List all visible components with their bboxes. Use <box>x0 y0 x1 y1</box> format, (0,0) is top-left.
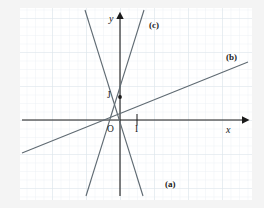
origin-label: O <box>107 125 114 135</box>
graph-screenshot: x y O I J (a) (b) (c) <box>0 0 264 208</box>
x-axis <box>22 116 250 124</box>
curve-b-line <box>22 62 248 153</box>
x-axis-label: x <box>226 125 230 135</box>
x-unit-label: I <box>135 125 138 135</box>
y-axis-label: y <box>109 14 113 24</box>
plot-panel: x y O I J (a) (b) (c) <box>20 8 252 200</box>
y-axis <box>116 12 123 196</box>
curve-a-line <box>85 10 143 196</box>
curve-b-label: (b) <box>226 53 237 62</box>
intersection-point-marker <box>118 95 122 99</box>
curve-c-line <box>86 10 144 196</box>
curve-a-label: (a) <box>165 180 176 189</box>
y-unit-label: J <box>107 91 111 101</box>
graph-layer <box>20 8 252 200</box>
curve-c-label: (c) <box>149 21 159 30</box>
